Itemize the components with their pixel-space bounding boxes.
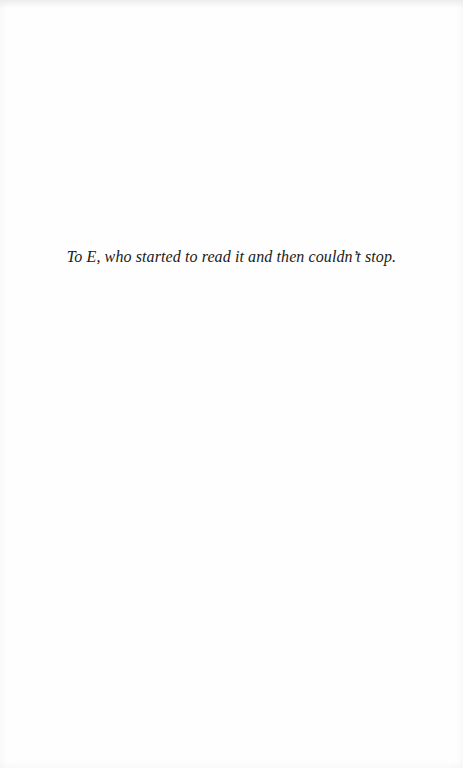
page-top-edge-shadow xyxy=(0,0,463,8)
book-page: To E, who started to read it and then co… xyxy=(0,0,463,768)
dedication-text: To E, who started to read it and then co… xyxy=(0,248,463,266)
